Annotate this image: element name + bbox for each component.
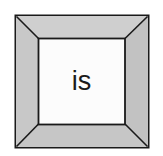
frame-center-label: is xyxy=(38,38,125,125)
figure-canvas: is xyxy=(0,0,163,156)
